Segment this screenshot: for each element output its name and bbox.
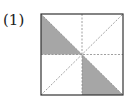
square-figure [0,0,129,96]
